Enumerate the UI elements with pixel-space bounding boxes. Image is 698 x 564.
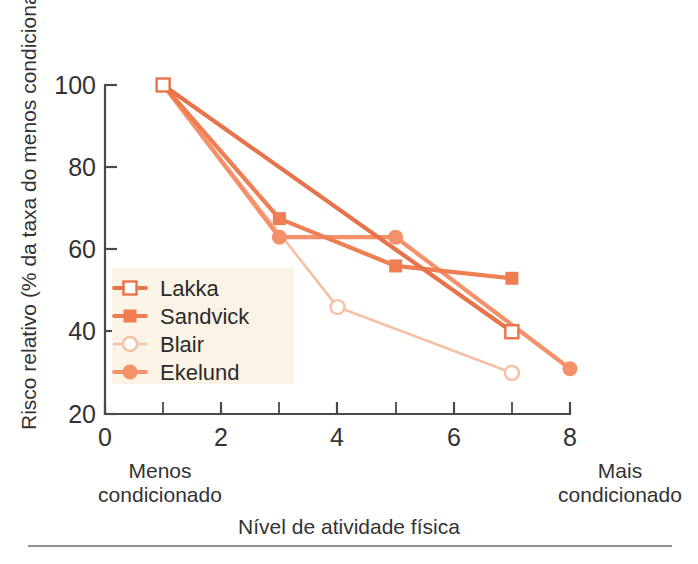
data-point-ekelund-1 <box>272 230 287 245</box>
x-end-right-line1: Mais <box>598 459 642 482</box>
legend-marker-sandvick <box>124 310 137 323</box>
chart-legend: LakkaSandvickBlairEkelund <box>112 268 294 385</box>
data-point-lakka-0 <box>157 79 170 92</box>
data-point-sandvick-2 <box>389 259 402 272</box>
x-end-left-line1: Menos <box>128 459 191 482</box>
data-point-ekelund-2 <box>388 230 403 245</box>
chart-figure: Risco relativo (% da taxa do menos condi… <box>0 0 698 564</box>
data-point-sandvick-1 <box>273 212 286 225</box>
x-axis-end-label-right: Mais condicionado <box>558 459 682 506</box>
legend-label-blair: Blair <box>160 332 204 357</box>
y-axis-tick-labels: 100 80 60 40 20 <box>54 71 96 428</box>
data-point-blair-1 <box>331 300 345 314</box>
y-tick-label-20: 20 <box>68 400 96 428</box>
x-tick-label-2: 2 <box>214 423 228 451</box>
x-tick-label-6: 6 <box>447 423 461 451</box>
y-axis-title: Risco relativo (% da taxa do menos condi… <box>17 0 40 430</box>
y-tick-label-80: 80 <box>68 153 96 181</box>
x-axis-end-label-left: Menos condicionado <box>98 459 222 506</box>
x-end-right-line2: condicionado <box>558 483 682 506</box>
x-axis-tick-labels: 0 2 4 6 8 <box>98 423 577 451</box>
series-sandvick <box>163 85 518 285</box>
data-point-lakka-1 <box>505 325 518 338</box>
y-tick-label-60: 60 <box>68 235 96 263</box>
data-point-ekelund-3 <box>563 361 578 376</box>
line-chart: Risco relativo (% da taxa do menos condi… <box>0 0 698 564</box>
legend-marker-lakka <box>124 282 137 295</box>
series-line-sandvick <box>163 85 512 278</box>
x-end-left-line2: condicionado <box>98 483 222 506</box>
legend-marker-blair <box>123 337 137 351</box>
x-tick-label-0: 0 <box>98 423 112 451</box>
legend-label-sandvick: Sandvick <box>160 304 250 329</box>
data-point-sandvick-3 <box>505 272 518 285</box>
legend-label-lakka: Lakka <box>160 276 219 301</box>
data-point-blair-2 <box>505 366 519 380</box>
y-tick-label-40: 40 <box>68 317 96 345</box>
y-tick-label-100: 100 <box>54 71 96 99</box>
x-axis-title: Nível de atividade física <box>238 515 460 538</box>
x-tick-label-4: 4 <box>330 423 344 451</box>
legend-marker-ekelund <box>123 365 138 380</box>
x-axis-ticks <box>105 402 570 414</box>
legend-label-ekelund: Ekelund <box>160 360 240 385</box>
x-tick-label-8: 8 <box>563 423 577 451</box>
